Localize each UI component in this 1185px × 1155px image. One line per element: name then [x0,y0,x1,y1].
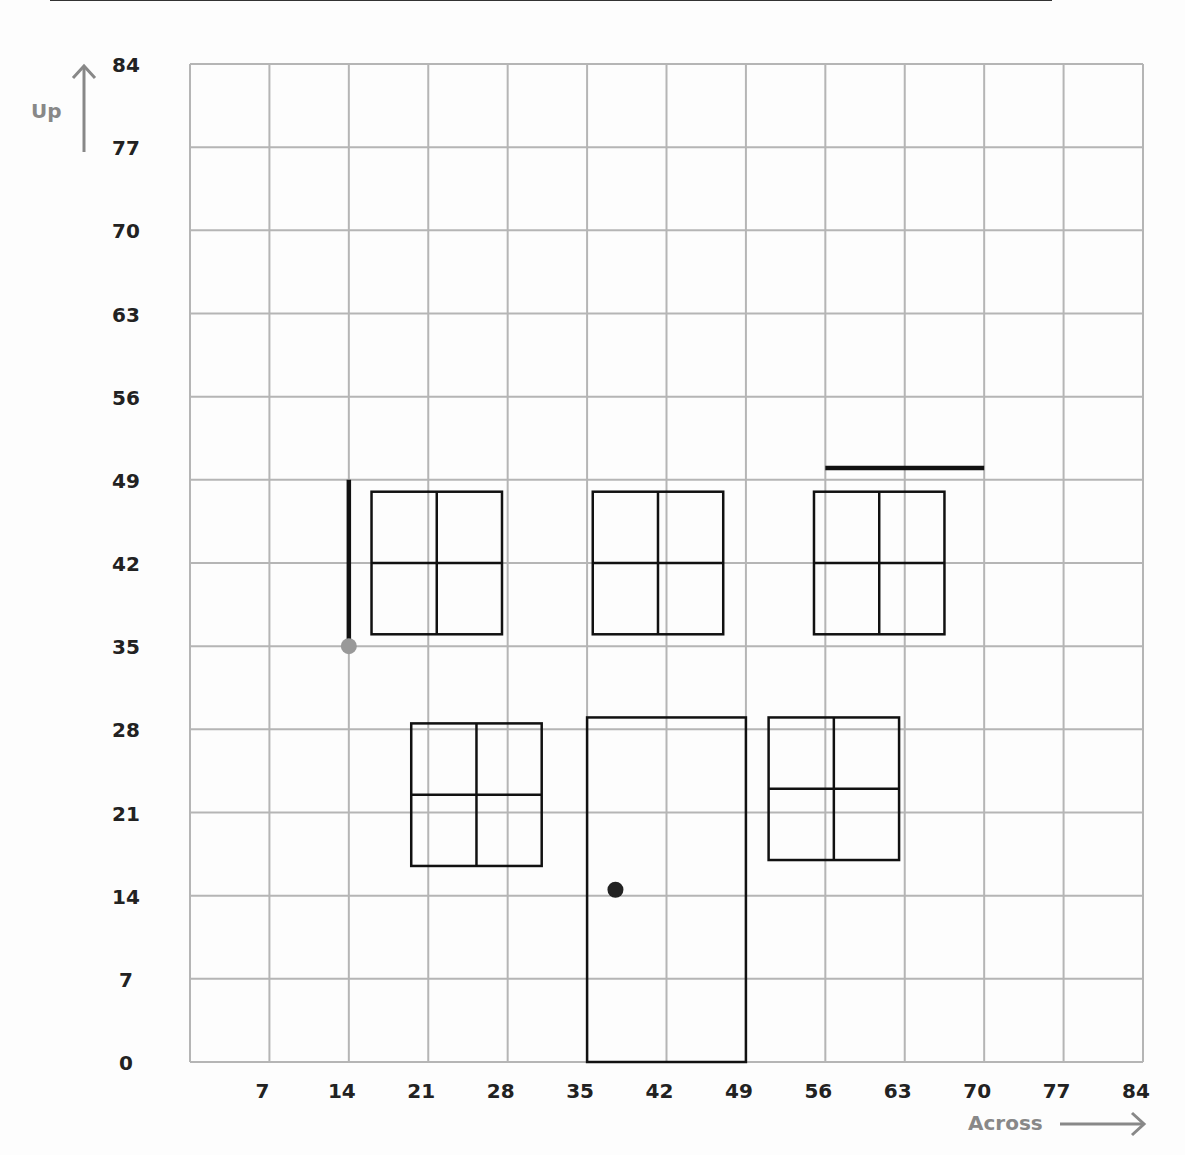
x-axis-indicator: Across [968,1111,1144,1135]
house-shapes [341,468,984,1062]
y-tick-label: 35 [112,635,140,659]
x-tick-label: 42 [646,1079,674,1103]
y-tick-label: 84 [112,53,140,77]
x-tick-label: 70 [963,1079,991,1103]
x-tick-label: 63 [884,1079,912,1103]
vertical-segment-endpoint [341,638,357,654]
x-tick-label: 7 [255,1079,269,1103]
y-tick-label: 77 [112,136,140,160]
y-tick-label: 56 [112,386,140,410]
window-upper-middle [593,492,723,635]
y-tick-label: 14 [112,885,140,909]
tick-labels: 0714212835424956637077847142128354249566… [112,53,1150,1103]
y-axis-label: Up [31,99,62,123]
window-upper-left [372,492,502,635]
x-tick-label: 35 [566,1079,594,1103]
y-tick-label: 7 [119,968,133,992]
y-tick-label: 21 [112,802,140,826]
y-tick-label: 70 [112,219,140,243]
y-tick-label: 63 [112,303,140,327]
coordinate-grid-diagram: 0714212835424956637077847142128354249566… [0,0,1185,1155]
x-tick-label: 49 [725,1079,753,1103]
window-upper-right [814,492,944,635]
x-tick-label: 77 [1043,1079,1071,1103]
y-tick-label: 49 [112,469,140,493]
y-axis-indicator: Up [31,66,95,152]
x-tick-label: 84 [1122,1079,1150,1103]
y-tick-label: 28 [112,718,140,742]
y-tick-label: 42 [112,552,140,576]
door-knob [607,882,623,898]
x-tick-label: 56 [804,1079,832,1103]
y-tick-label: 0 [119,1051,133,1075]
window-lower-right [769,717,899,860]
x-axis-label: Across [968,1111,1043,1135]
x-tick-label: 14 [328,1079,356,1103]
x-tick-label: 21 [407,1079,435,1103]
x-tick-label: 28 [487,1079,515,1103]
window-lower-left [411,723,541,866]
